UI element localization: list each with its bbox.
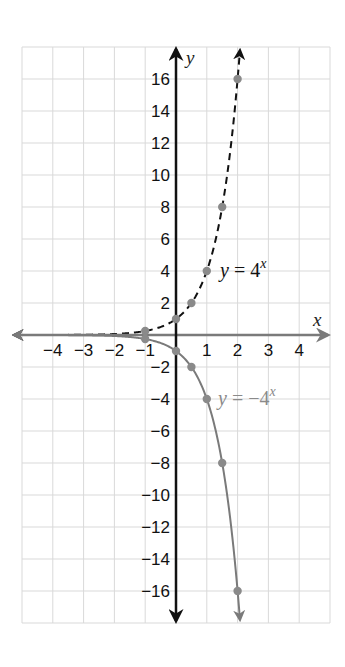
y-tick-label: 6 xyxy=(161,230,170,249)
y-tick-label: 8 xyxy=(161,198,170,217)
y-tick-label: −14 xyxy=(141,550,170,569)
exponential-graph: −4−3−2−11234161412108642−2−4−6−8−10−12−1… xyxy=(0,0,345,667)
data-point xyxy=(203,267,211,275)
y-tick-label: 16 xyxy=(151,70,170,89)
x-tick-label: −4 xyxy=(43,341,62,360)
y-tick-label: −10 xyxy=(141,486,170,505)
data-point xyxy=(187,363,195,371)
data-point xyxy=(187,299,195,307)
y-tick-label: −4 xyxy=(151,390,170,409)
y-tick-label: 10 xyxy=(151,166,170,185)
data-point xyxy=(218,459,226,467)
data-point xyxy=(218,203,226,211)
data-point xyxy=(233,75,241,83)
y-tick-label: 2 xyxy=(161,294,170,313)
x-tick-label: 3 xyxy=(264,341,273,360)
x-tick-label: 2 xyxy=(233,341,242,360)
y-tick-label: −6 xyxy=(151,422,170,441)
data-point xyxy=(141,327,149,335)
axes xyxy=(14,49,328,621)
equation-label-4-pow-x: y = 4x xyxy=(218,256,267,282)
x-tick-label: −2 xyxy=(105,341,124,360)
y-tick-label: 14 xyxy=(151,102,170,121)
y-tick-label: 12 xyxy=(151,134,170,153)
curve-neg-4-pow-x xyxy=(14,335,240,620)
equation-label-neg-4-pow-x: y = −4x xyxy=(216,384,276,410)
x-tick-label: 4 xyxy=(294,341,303,360)
data-point xyxy=(172,347,180,355)
y-tick-label: −16 xyxy=(141,582,170,601)
y-tick-label: −2 xyxy=(151,358,170,377)
x-axis-label: x xyxy=(312,309,322,330)
y-tick-label: −8 xyxy=(151,454,170,473)
y-tick-label: 4 xyxy=(161,262,170,281)
x-tick-label: −3 xyxy=(74,341,93,360)
data-point xyxy=(172,315,180,323)
y-axis-label: y xyxy=(184,47,195,68)
y-tick-label: −12 xyxy=(141,518,170,537)
data-point xyxy=(203,395,211,403)
data-point xyxy=(141,335,149,343)
data-point xyxy=(233,587,241,595)
curve-4-pow-x xyxy=(14,50,240,335)
x-tick-label: 1 xyxy=(202,341,211,360)
